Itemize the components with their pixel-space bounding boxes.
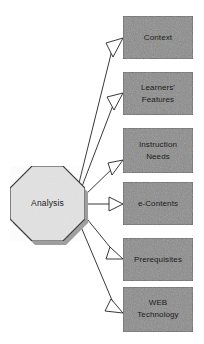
source-node-label: Analysis	[31, 198, 64, 208]
connector-line-context	[79, 46, 113, 183]
connector-line-learners	[81, 100, 115, 189]
target-box-context-label: Context	[144, 33, 173, 42]
target-box-web-label-line2: Technology	[137, 310, 178, 319]
target-box-econtents-label: e-Contents	[138, 199, 178, 208]
connector-line-web	[79, 222, 114, 305]
target-box-instruction-rect	[123, 128, 193, 173]
arrowhead-econtents	[109, 197, 123, 211]
target-box-web[interactable]: WEB Technology	[123, 287, 193, 332]
target-box-learners-rect	[123, 72, 193, 115]
connector-arrowheads	[105, 38, 123, 313]
arrowhead-instruction	[108, 160, 123, 175]
target-box-instruction-label-line1: Instruction	[139, 140, 177, 149]
target-box-econtents[interactable]: e-Contents	[123, 182, 193, 225]
target-box-instruction[interactable]: Instruction Needs	[123, 128, 193, 173]
target-box-learners-label-line1: Learners'	[141, 83, 175, 92]
target-box-prerequisites-label: Prerequisites	[134, 255, 182, 264]
arrowhead-prerequisites	[106, 247, 123, 259]
arrowhead-context	[106, 38, 123, 57]
target-box-web-label-line1: WEB	[149, 298, 168, 307]
target-box-learners[interactable]: Learners' Features	[123, 72, 193, 115]
target-box-context[interactable]: Context	[123, 16, 193, 59]
target-box-learners-label-line2: Features	[142, 95, 174, 104]
connector-lines	[79, 46, 116, 305]
source-node-analysis[interactable]: Analysis	[10, 166, 88, 245]
diagram-canvas: Analysis Context Learners' Features Inst…	[0, 0, 204, 344]
arrowhead-web	[105, 299, 123, 313]
target-box-prerequisites[interactable]: Prerequisites	[123, 238, 193, 281]
analysis-flow-diagram: Analysis Context Learners' Features Inst…	[0, 0, 204, 344]
arrowhead-learners	[107, 93, 123, 110]
target-box-instruction-label-line2: Needs	[146, 152, 170, 161]
